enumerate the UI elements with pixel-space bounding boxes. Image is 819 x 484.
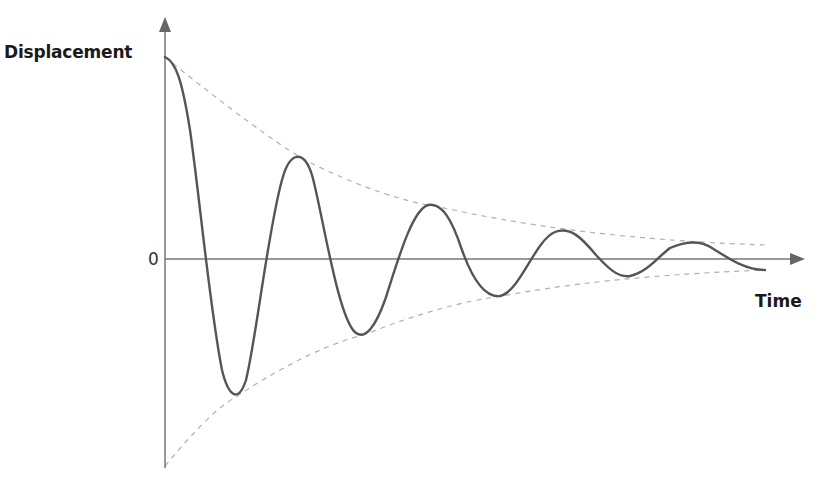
y-axis-label: Displacement (4, 42, 132, 62)
plot-area (0, 0, 819, 484)
lower-envelope (165, 270, 765, 466)
displacement-curve (165, 57, 765, 394)
y-axis-arrow-icon (159, 17, 171, 32)
zero-tick-label: 0 (148, 249, 159, 269)
damped-oscillation-diagram: Displacement 0 Time (0, 0, 819, 484)
upper-envelope (165, 57, 765, 245)
x-axis-arrow-icon (790, 253, 805, 265)
x-axis-label: Time (755, 291, 802, 311)
